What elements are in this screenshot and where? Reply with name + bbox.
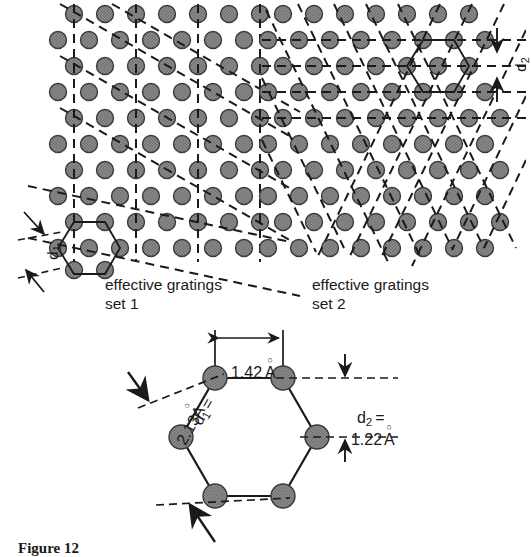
label-bond-length: 1.42A○ <box>222 345 276 383</box>
label-d1-left-panel: d1 <box>26 245 63 268</box>
d2-symbol: d <box>512 63 529 71</box>
label-effective-gratings-set2-line2: set 2 <box>312 295 346 313</box>
label-effective-gratings-set2-line1: effective gratings <box>312 276 429 294</box>
d1-subscript: 1 <box>51 245 63 251</box>
atom-grid-right <box>260 6 509 257</box>
grating-lines-horizontal-set2 <box>262 40 526 118</box>
label-effective-gratings-set1-line1: effective gratings <box>105 276 222 294</box>
figure-caption: Figure 12 <box>18 540 79 557</box>
d1-symbol: d <box>44 251 61 259</box>
bond-length-unit: A○ <box>265 364 276 381</box>
d2-value-unit: A○ <box>384 431 395 448</box>
atom-grid-left <box>50 6 269 279</box>
bond-length-value: 1.42 <box>231 364 262 381</box>
label-effective-gratings-set1-line2: set 1 <box>105 295 139 313</box>
label-d2-top-right: d2 <box>494 57 531 80</box>
lattice-panel-set2 <box>260 4 527 266</box>
d2-subscript: 2 <box>519 57 531 63</box>
d2-value-number: 1.22 <box>351 431 382 448</box>
label-d2-value: 1.22A○ <box>342 412 395 450</box>
